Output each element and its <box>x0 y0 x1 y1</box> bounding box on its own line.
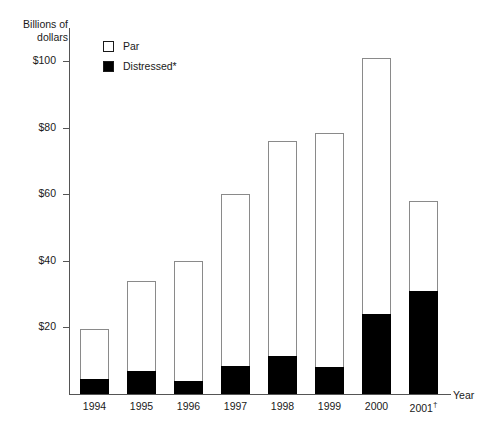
x-axis-tick-label: 1994 <box>70 400 119 412</box>
bar-group <box>221 194 250 394</box>
bar-group <box>409 201 438 394</box>
x-axis-tick-label: 1996 <box>164 400 213 412</box>
x-axis-tick-label: 2000 <box>352 400 401 412</box>
bar-segment-par <box>315 133 344 394</box>
bar-segment-par <box>221 194 250 394</box>
bar-group <box>362 58 391 394</box>
y-axis-tick-label: $100 <box>0 54 56 66</box>
bar-segment-distressed <box>174 381 203 394</box>
bar-group <box>174 261 203 394</box>
bar-segment-distressed <box>80 379 109 394</box>
bar-group <box>268 141 297 394</box>
bar-group <box>127 281 156 394</box>
x-axis-tick-label: 1998 <box>258 400 307 412</box>
dagger-footnote-marker: † <box>433 400 437 409</box>
bar-group <box>80 329 109 394</box>
x-axis-tick-label: 2001† <box>399 400 448 414</box>
bar-chart: Billions of dollars Year $20$40$60$80$10… <box>0 0 482 434</box>
x-axis-tick-label: 1997 <box>211 400 260 412</box>
plot-area <box>69 28 451 394</box>
bar-group <box>315 133 344 394</box>
bar-segment-par <box>174 261 203 394</box>
y-axis-tick-label: $40 <box>0 254 56 266</box>
bar-segment-distressed <box>268 356 297 394</box>
y-axis-tick-label: $80 <box>0 121 56 133</box>
bar-segment-distressed <box>362 314 391 394</box>
x-axis-title: Year <box>453 389 474 401</box>
y-axis-tick-label: $60 <box>0 187 56 199</box>
x-axis-line <box>69 394 451 395</box>
bar-segment-distressed <box>221 366 250 394</box>
bar-segment-distressed <box>127 371 156 394</box>
y-axis-title: Billions of dollars <box>6 18 68 43</box>
bar-segment-distressed <box>315 367 344 394</box>
x-axis-tick-label: 1999 <box>305 400 354 412</box>
bar-segment-distressed <box>409 291 438 394</box>
x-axis-tick-label: 1995 <box>117 400 166 412</box>
y-axis-tick-label: $20 <box>0 320 56 332</box>
